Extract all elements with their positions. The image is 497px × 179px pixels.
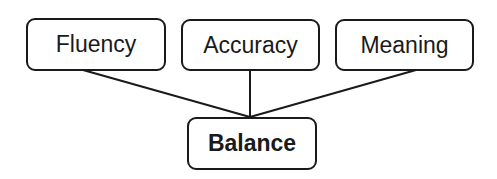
node-fluency: Fluency xyxy=(26,18,166,71)
connector-meaning-balance xyxy=(250,70,416,117)
node-meaning-label: Meaning xyxy=(360,32,448,59)
node-meaning: Meaning xyxy=(335,19,474,71)
node-balance: Balance xyxy=(187,117,317,170)
node-balance-label: Balance xyxy=(208,130,296,157)
node-accuracy: Accuracy xyxy=(181,19,320,71)
node-accuracy-label: Accuracy xyxy=(203,32,298,59)
node-fluency-label: Fluency xyxy=(56,31,137,58)
connector-fluency-balance xyxy=(83,70,250,117)
